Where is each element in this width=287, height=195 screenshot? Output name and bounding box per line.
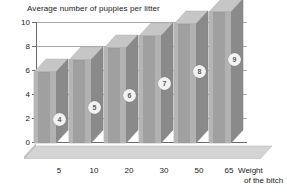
- bar-value-badge-50: 8: [193, 65, 206, 78]
- chart-screenshot: Average number of puppies per litter 10 …: [0, 0, 287, 195]
- y-tick-label-6: 6: [8, 66, 30, 75]
- y-tick-label-8: 8: [8, 42, 30, 51]
- x-axis-title: Weight of the bitch: [238, 166, 283, 186]
- x-tick-label-10: 10: [81, 166, 107, 175]
- bar-50: [174, 11, 210, 143]
- y-tick-mark: [32, 46, 36, 47]
- x-tick-label-30: 30: [151, 166, 177, 175]
- bar-value-badge-20: 6: [123, 89, 136, 102]
- x-tick-label-50: 50: [186, 166, 212, 175]
- bar-10: [69, 47, 105, 143]
- plot-area: 10 8 6 4 2 0: [0, 0, 287, 195]
- x-tick-label-20: 20: [116, 166, 142, 175]
- bar-5: [34, 59, 70, 143]
- y-tick-label-2: 2: [8, 114, 30, 123]
- bar-value-badge-30: 7: [158, 77, 171, 90]
- bar-value-badge-65: 9: [228, 53, 241, 66]
- y-tick-label-4: 4: [8, 90, 30, 99]
- bar-value-badge-10: 5: [88, 101, 101, 114]
- y-tick-mark: [32, 22, 36, 23]
- x-axis-title-line2: of the bitch: [238, 176, 283, 186]
- bar-value-badge-5: 4: [53, 113, 66, 126]
- y-tick-label-10: 10: [8, 18, 30, 27]
- x-tick-label-5: 5: [46, 166, 72, 175]
- y-tick-label-0: 0: [8, 138, 30, 147]
- bar-65: [209, 0, 245, 143]
- bar-20: [104, 35, 140, 143]
- x-axis-title-line1: Weight: [238, 166, 263, 175]
